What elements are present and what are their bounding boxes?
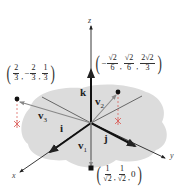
v1-coordinates: ( 1√2 , 1√2 , 0 ): [95, 163, 143, 185]
v2-y-fraction: √26: [124, 54, 134, 72]
v2-x-fraction: √26: [107, 54, 117, 72]
separator: ,: [120, 63, 122, 74]
x-axis-label: x: [12, 172, 16, 180]
close-paren: ): [137, 163, 141, 185]
v2-label: v2: [95, 96, 104, 110]
v3-endpoint: [15, 97, 20, 102]
j-label: j: [104, 133, 108, 144]
v3-coordinates: ( 23 , − 23 , 13 ): [5, 62, 57, 84]
k-label: k: [80, 87, 86, 98]
v2-coordinates: ( − √26 , √26 , 2√23 ): [94, 52, 163, 74]
v3-projection-marker-icon: [14, 120, 20, 128]
v2-endpoint: [116, 90, 121, 95]
open-paren: (: [95, 52, 99, 74]
separator: ,: [114, 174, 116, 185]
minus-sign: −: [101, 59, 106, 68]
separator: ,: [136, 63, 138, 74]
v2-z-fraction: 2√23: [140, 54, 154, 72]
open-paren: (: [96, 163, 100, 185]
close-paren: ): [157, 52, 161, 74]
separator: ,: [38, 73, 40, 84]
v1-z-value: 0: [131, 170, 136, 179]
v1-y-fraction: 1√2: [118, 165, 126, 183]
separator: ,: [128, 174, 130, 185]
v1-label: v1: [78, 140, 87, 154]
v3-x-fraction: 23: [13, 64, 19, 82]
minus-sign: −: [24, 69, 29, 78]
z-axis-label: z: [88, 17, 91, 25]
v1-x-fraction: 1√2: [103, 165, 111, 183]
v3-z-fraction: 13: [42, 64, 48, 82]
close-paren: ): [51, 62, 55, 84]
open-paren: (: [6, 62, 10, 84]
i-label: i: [60, 123, 63, 134]
v1-endpoint: [89, 166, 94, 171]
y-axis-label: y: [170, 152, 174, 160]
v3-y-fraction: 23: [30, 64, 36, 82]
separator: ,: [21, 73, 23, 84]
v3-label: v3: [38, 110, 47, 124]
